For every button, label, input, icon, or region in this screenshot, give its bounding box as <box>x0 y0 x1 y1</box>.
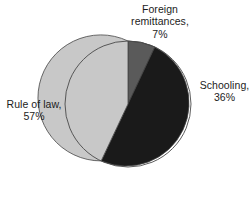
pie-label-schooling: Schooling, 36% <box>197 79 252 104</box>
pie-label-foreign-remittances: Foreign remittances, 7% <box>118 3 202 40</box>
pie-label-rule-of-law: Rule of law, 57% <box>2 98 66 123</box>
pie-chart-figure: Foreign remittances, 7% Schooling, 36% R… <box>0 0 252 202</box>
